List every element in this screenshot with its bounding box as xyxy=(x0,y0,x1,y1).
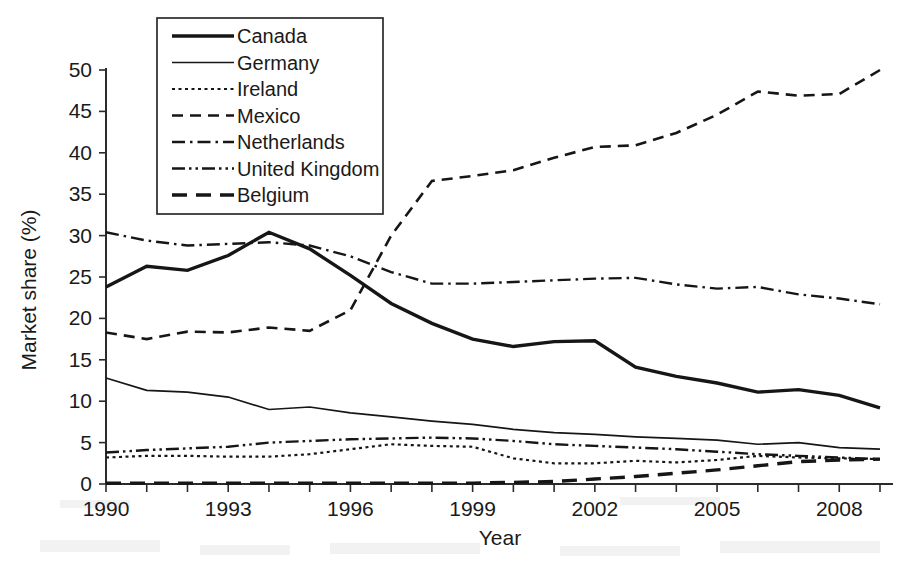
legend-label-germany: Germany xyxy=(237,52,319,74)
y-tick-label: 25 xyxy=(69,265,92,288)
x-tick-label: 2008 xyxy=(816,497,863,520)
legend-label-belgium: Belgium xyxy=(237,184,309,206)
legend-label-ireland: Ireland xyxy=(237,78,298,100)
chart-background xyxy=(0,0,913,578)
x-tick-label: 2002 xyxy=(571,497,618,520)
line-chart: 05101520253035404550 1990199319961999200… xyxy=(0,0,913,578)
y-tick-label: 50 xyxy=(69,58,92,81)
x-tick-label: 1990 xyxy=(83,497,130,520)
chart-container: 05101520253035404550 1990199319961999200… xyxy=(0,0,913,578)
y-tick-label: 30 xyxy=(69,224,92,247)
legend-label-netherlands: Netherlands xyxy=(237,131,345,153)
x-tick-label: 1999 xyxy=(449,497,496,520)
y-tick-label: 40 xyxy=(69,141,92,164)
y-tick-label: 35 xyxy=(69,182,92,205)
x-tick-label: 2005 xyxy=(694,497,741,520)
x-axis-title: Year xyxy=(479,526,521,549)
y-tick-label: 10 xyxy=(69,389,92,412)
x-tick-label: 1993 xyxy=(205,497,252,520)
x-tick-label: 1996 xyxy=(327,497,374,520)
y-tick-label: 5 xyxy=(80,431,92,454)
y-tick-label: 0 xyxy=(80,472,92,495)
y-tick-label: 45 xyxy=(69,99,92,122)
legend-label-canada: Canada xyxy=(237,25,308,47)
legend-label-mexico: Mexico xyxy=(237,105,300,127)
legend-label-united-kingdom: United Kingdom xyxy=(237,158,379,180)
y-tick-label: 20 xyxy=(69,306,92,329)
y-tick-label: 15 xyxy=(69,348,92,371)
chart-legend: CanadaGermanyIrelandMexicoNetherlandsUni… xyxy=(157,18,383,214)
y-axis-title: Market share (%) xyxy=(17,209,40,370)
